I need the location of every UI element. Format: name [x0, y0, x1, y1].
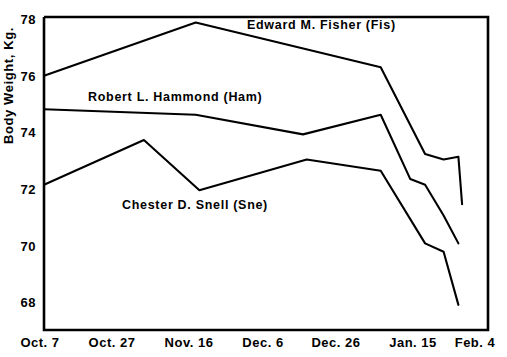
y-tick-78: 78	[8, 13, 36, 26]
y-tick-72: 72	[8, 183, 36, 196]
series-label-hammond: Robert L. Hammond (Ham)	[88, 91, 262, 104]
x-tick-oct-7: Oct. 7	[8, 336, 72, 349]
weight-loss-line-chart: Body Weight, Kg. 78 76 74 72 70 68 Oct. …	[0, 0, 507, 357]
x-tick-oct-27: Oct. 27	[78, 336, 146, 349]
series-line-snell	[44, 140, 458, 305]
y-tick-74: 74	[8, 126, 36, 139]
x-tick-dec-6: Dec. 6	[231, 336, 295, 349]
series-line-fisher	[44, 23, 462, 205]
axis-frame	[44, 17, 488, 330]
series-label-fisher: Edward M. Fisher (Fis)	[247, 19, 396, 32]
y-tick-68: 68	[8, 296, 36, 309]
series-label-snell: Chester D. Snell (Sne)	[122, 199, 268, 212]
y-tick-76: 76	[8, 70, 36, 83]
x-tick-jan-15: Jan. 15	[380, 336, 446, 349]
x-tick-feb-4: Feb. 4	[446, 336, 504, 349]
y-tick-70: 70	[8, 240, 36, 253]
chart-canvas	[0, 0, 507, 357]
x-tick-nov-16: Nov. 16	[155, 336, 223, 349]
x-tick-dec-26: Dec. 26	[302, 336, 370, 349]
